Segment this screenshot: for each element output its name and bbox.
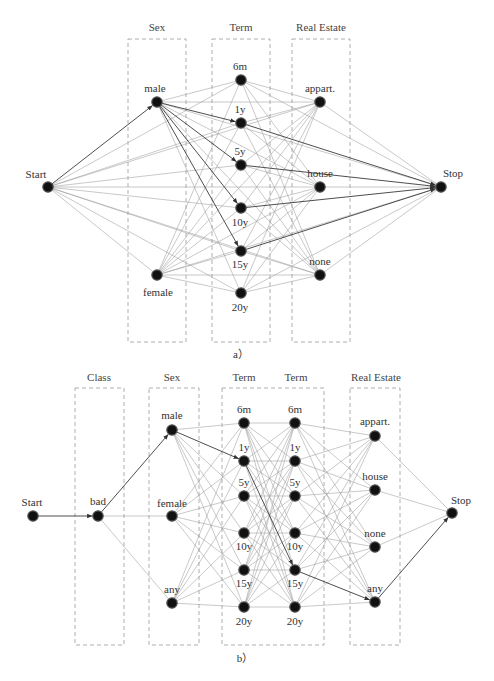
edge — [375, 513, 452, 547]
node-label: 10y — [287, 540, 304, 552]
node-label: 1y — [239, 441, 251, 453]
node-a5y — [239, 491, 249, 501]
node-male — [152, 97, 162, 107]
edge — [241, 80, 441, 187]
node-b6m — [290, 418, 300, 428]
node-a15y — [239, 565, 249, 575]
node-female — [167, 511, 177, 521]
edge — [157, 251, 241, 275]
node-house — [370, 485, 380, 495]
node-t15y — [236, 246, 246, 256]
edge — [295, 490, 375, 570]
node-label: house — [307, 167, 333, 179]
edge — [241, 187, 320, 293]
edge — [295, 490, 375, 496]
node-any_r — [370, 597, 380, 607]
edge — [157, 165, 241, 275]
node-label: 15y — [232, 258, 249, 270]
group-header: Real Estate — [351, 371, 401, 383]
edge — [172, 533, 244, 603]
edge — [320, 187, 441, 275]
node-label: 5y — [235, 145, 247, 157]
node-label: none — [309, 255, 331, 267]
group-header: Class — [87, 371, 111, 383]
edge — [241, 275, 320, 293]
node-stop — [447, 508, 457, 518]
node-label: Stop — [451, 494, 472, 506]
node-label: 20y — [232, 301, 249, 313]
edge — [172, 423, 244, 430]
node-label: 1y — [290, 441, 302, 453]
edge — [172, 603, 244, 607]
node-none — [315, 270, 325, 280]
node-b5y — [290, 491, 300, 501]
edge — [157, 80, 241, 102]
node-label: 6m — [233, 60, 248, 72]
node-bad — [93, 511, 103, 521]
edge — [295, 533, 375, 547]
node-label: none — [364, 527, 386, 539]
node-b1y — [290, 456, 300, 466]
panel-b: ClassSexTermTermReal EstateStartbadmalef… — [22, 371, 472, 664]
edge — [295, 533, 375, 602]
group-header: Term — [232, 371, 255, 383]
node-label: Start — [22, 496, 43, 508]
edge — [241, 102, 320, 165]
edge — [241, 165, 320, 275]
node-male — [167, 425, 177, 435]
node-any_s — [167, 598, 177, 608]
edge — [241, 102, 320, 208]
node-label: 10y — [232, 216, 249, 228]
edges — [98, 423, 452, 607]
node-t10y — [236, 203, 246, 213]
edge — [295, 602, 375, 607]
edge — [172, 430, 244, 496]
node-t5y — [236, 160, 246, 170]
node-female — [152, 270, 162, 280]
node-appart — [370, 431, 380, 441]
node-start — [28, 511, 38, 521]
node-label: house — [362, 470, 388, 482]
panel-a: SexTermReal EstateStartmalefemale6m1y5y1… — [26, 21, 464, 360]
node-label: any — [367, 582, 383, 594]
node-house — [315, 182, 325, 192]
node-label: appart. — [305, 82, 335, 94]
node-label: 10y — [236, 540, 253, 552]
edge — [295, 423, 375, 547]
edge — [320, 102, 441, 187]
node-start — [43, 182, 53, 192]
node-label: any — [164, 583, 180, 595]
edge — [295, 490, 375, 607]
group-header: Term — [229, 21, 252, 33]
edge — [295, 547, 375, 607]
node-t1y — [236, 118, 246, 128]
node-label: 1y — [235, 103, 247, 115]
network-diagram: SexTermReal EstateStartmalefemale6m1y5y1… — [0, 0, 494, 681]
node-label: male — [161, 409, 182, 421]
node-label: 15y — [236, 577, 253, 589]
node-label: 5y — [290, 476, 302, 488]
edge — [157, 102, 441, 187]
node-label: appart. — [360, 415, 390, 427]
node-label: Start — [26, 168, 47, 180]
node-t20y — [236, 288, 246, 298]
node-none — [370, 542, 380, 552]
edge — [295, 436, 375, 461]
edge — [98, 516, 172, 603]
highlighted-edge — [295, 570, 370, 600]
node-label: male — [144, 82, 165, 94]
edge — [172, 461, 244, 603]
node-label: 20y — [287, 615, 304, 627]
node-b10y — [290, 528, 300, 538]
node-stop — [436, 182, 446, 192]
edge — [295, 436, 375, 533]
panel-caption-b: b） — [237, 652, 254, 664]
highlighted-edge — [375, 517, 448, 602]
node-a10y — [239, 528, 249, 538]
group-header: Sex — [164, 371, 181, 383]
node-appart — [315, 97, 325, 107]
edge — [295, 547, 375, 570]
highlighted-edge — [157, 102, 238, 246]
group-header: Sex — [149, 21, 166, 33]
node-label: female — [143, 286, 173, 298]
